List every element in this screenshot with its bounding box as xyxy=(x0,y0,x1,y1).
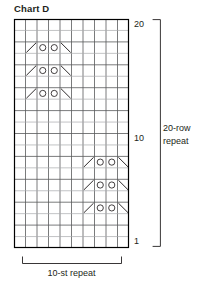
right-leaning-decrease-icon xyxy=(84,180,94,190)
left-leaning-decrease-icon xyxy=(118,203,128,213)
yarn-over-icon xyxy=(109,181,115,187)
right-leaning-decrease-icon xyxy=(26,88,36,98)
left-leaning-decrease-icon xyxy=(61,65,71,75)
stitch-repeat-bracket-svg xyxy=(22,256,122,264)
yarn-over-icon xyxy=(51,67,57,73)
left-leaning-decrease-icon xyxy=(118,180,128,190)
row-number-label: 20 xyxy=(134,20,144,29)
yarn-over-icon xyxy=(51,90,57,96)
yarn-over-icon xyxy=(97,159,103,165)
right-leaning-decrease-icon xyxy=(26,65,36,75)
row-repeat-line-2: repeat xyxy=(163,135,209,148)
left-leaning-decrease-icon xyxy=(61,42,71,52)
yarn-over-icon xyxy=(109,204,115,210)
yarn-over-icon xyxy=(40,44,46,50)
chart-grid-svg xyxy=(14,19,129,248)
yarn-over-icon xyxy=(109,159,115,165)
row-repeat-bracket-svg xyxy=(152,19,161,247)
page-title: Chart D xyxy=(14,3,49,14)
yarn-over-icon xyxy=(40,67,46,73)
row-number-label: 10 xyxy=(134,134,144,143)
yarn-over-icon xyxy=(51,44,57,50)
stitch-repeat-caption: 10-st repeat xyxy=(14,268,129,278)
grid-lines xyxy=(14,19,129,248)
yarn-over-icon xyxy=(97,204,103,210)
stitch-repeat-bracket xyxy=(22,256,122,264)
chart-grid xyxy=(14,19,129,248)
left-leaning-decrease-icon xyxy=(118,157,128,167)
right-leaning-decrease-icon xyxy=(26,42,36,52)
right-leaning-decrease-icon xyxy=(84,203,94,213)
row-repeat-line-1: 20-row xyxy=(163,122,209,135)
row-repeat-bracket xyxy=(152,19,161,247)
chart-symbols xyxy=(26,42,128,212)
right-leaning-decrease-icon xyxy=(84,157,94,167)
yarn-over-icon xyxy=(40,90,46,96)
row-number-label: 1 xyxy=(134,237,139,246)
row-repeat-caption: 20-row repeat xyxy=(163,122,209,147)
left-leaning-decrease-icon xyxy=(61,88,71,98)
yarn-over-icon xyxy=(97,181,103,187)
